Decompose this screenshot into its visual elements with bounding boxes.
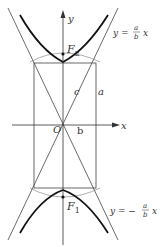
circle-arc-bottom	[30, 188, 100, 197]
svg-text:x: x	[152, 206, 157, 216]
svg-text:x: x	[143, 28, 148, 38]
hyperbola-diagram: y x O F2 F1 c a b y = a b x y = − a b x	[0, 0, 166, 247]
svg-text:a: a	[134, 24, 138, 32]
focus-f2-point	[61, 52, 64, 55]
x-axis-arrow	[112, 123, 120, 128]
svg-text:y = −: y = −	[109, 206, 136, 216]
c-label: c	[74, 86, 80, 97]
y-axis-label: y	[67, 13, 74, 24]
y-axis-arrow	[61, 10, 66, 18]
a-label: a	[98, 86, 104, 97]
b-label: b	[77, 125, 83, 136]
svg-text:a: a	[143, 202, 147, 210]
svg-text:b: b	[143, 211, 148, 219]
svg-text:y =: y =	[112, 28, 129, 38]
svg-text:b: b	[134, 33, 139, 41]
focus-f1-point	[61, 195, 64, 198]
asymptote-upper-equation: y = a b x	[112, 24, 148, 41]
focus-f1-label: F1	[66, 200, 80, 215]
x-axis-label: x	[121, 120, 127, 131]
focus-f2-label: F2	[66, 43, 80, 58]
origin-label: O	[53, 124, 61, 135]
asymptote-lower-equation: y = − a b x	[109, 202, 157, 219]
